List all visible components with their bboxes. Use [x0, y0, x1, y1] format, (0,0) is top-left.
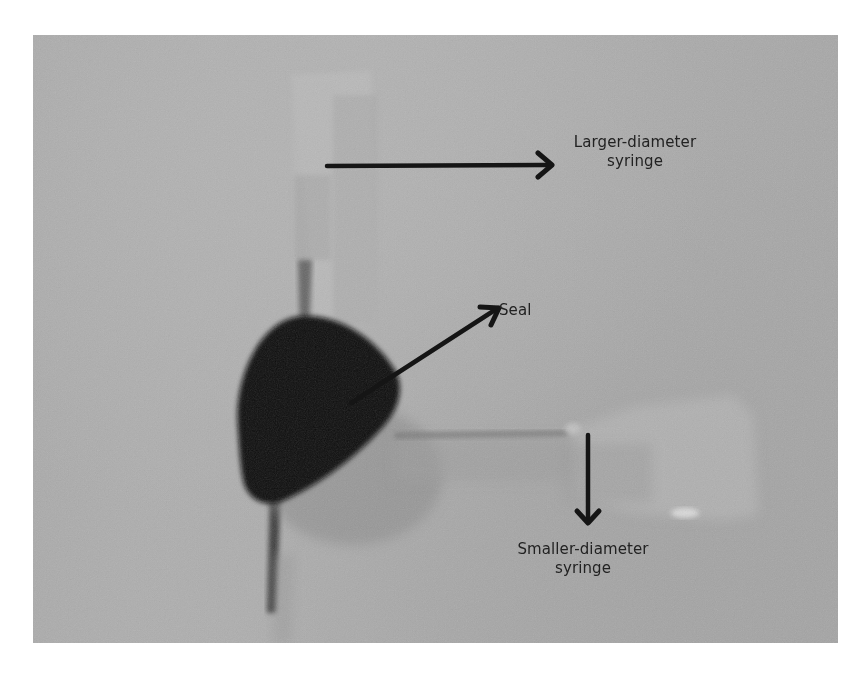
label-smaller-line-2: syringe — [508, 559, 658, 578]
photo-grain — [33, 35, 838, 643]
photo-scene — [33, 35, 838, 643]
label-smaller-diameter-syringe: Smaller-diameter syringe — [508, 540, 658, 578]
label-larger-line-1: Larger-diameter — [565, 133, 705, 152]
label-smaller-line-1: Smaller-diameter — [508, 540, 658, 559]
label-seal: Seal — [499, 301, 532, 320]
label-seal-line-1: Seal — [499, 301, 532, 320]
syringe-photo: Larger-diameter syringe Seal Smaller-dia… — [33, 35, 838, 643]
label-larger-diameter-syringe: Larger-diameter syringe — [565, 133, 705, 171]
label-larger-line-2: syringe — [565, 152, 705, 171]
